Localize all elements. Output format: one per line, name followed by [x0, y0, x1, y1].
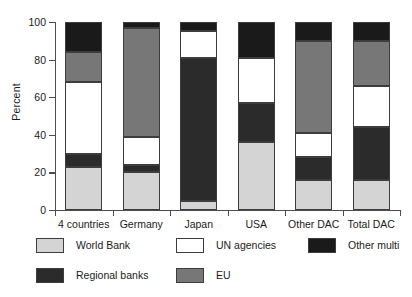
x-axis-tick-label: Total DAC: [348, 219, 395, 230]
bar-segment-regional-banks: [180, 58, 217, 201]
bar-segment-world-bank: [238, 142, 275, 210]
y-axis-tick: [49, 172, 55, 173]
y-axis-tick-label: 80: [34, 54, 46, 65]
x-axis-tick-label: 4 countries: [58, 219, 109, 230]
legend-item-un-agencies: UN agencies: [176, 236, 276, 254]
bar-segment-un-agencies: [123, 137, 160, 165]
bar-segment-regional-banks: [295, 157, 332, 180]
y-axis-tick: [49, 60, 55, 61]
legend-label: EU: [216, 269, 231, 281]
x-axis-tick: [113, 210, 114, 216]
y-axis-tick-label: 60: [34, 92, 46, 103]
bar-segment-other-multi: [180, 22, 217, 31]
bar-segment-other-multi: [353, 22, 390, 41]
legend-item-other-multi: Other multi: [308, 236, 399, 254]
bar-segment-un-agencies: [295, 133, 332, 157]
legend-swatch-icon: [36, 268, 64, 283]
x-axis-tick: [170, 210, 171, 216]
x-axis-tick: [400, 210, 401, 216]
bar-segment-un-agencies: [180, 31, 217, 57]
chart-legend: World BankUN agenciesOther multiRegional…: [36, 236, 406, 294]
legend-item-regional-banks: Regional banks: [36, 266, 148, 284]
y-axis-tick-label: 100: [28, 17, 46, 28]
legend-swatch-icon: [176, 268, 204, 283]
bar-segment-un-agencies: [65, 82, 102, 153]
x-axis-tick: [228, 210, 229, 216]
bar-segment-world-bank: [353, 180, 390, 210]
plot-area: 020406080100 4 countriesGermanyJapanUSAO…: [55, 22, 400, 210]
y-axis-tick-label: 40: [34, 130, 46, 141]
x-axis-tick: [55, 210, 56, 216]
y-axis-tick: [49, 135, 55, 136]
legend-swatch-icon: [308, 238, 336, 253]
y-axis-line: [55, 22, 56, 210]
bar-segment-un-agencies: [353, 86, 390, 127]
legend-label: Other multi: [348, 239, 399, 251]
bar-japan: [180, 22, 217, 210]
bar-segment-world-bank: [65, 167, 102, 210]
bar-segment-other-multi: [123, 22, 160, 28]
stacked-bar-chart: Percent 020406080100 4 countriesGermanyJ…: [0, 0, 412, 297]
bar-segment-eu: [353, 41, 390, 86]
x-axis-tick-label: Other DAC: [288, 219, 339, 230]
y-axis-tick: [49, 97, 55, 98]
bar-segment-other-multi: [295, 22, 332, 41]
bar-usa: [238, 22, 275, 210]
x-axis-tick: [285, 210, 286, 216]
y-axis-tick: [49, 22, 55, 23]
x-axis-tick-label: USA: [245, 219, 267, 230]
x-axis-tick-label: Germany: [120, 219, 163, 230]
bar-segment-regional-banks: [238, 103, 275, 142]
legend-label: UN agencies: [216, 239, 276, 251]
bar-segment-eu: [65, 52, 102, 82]
legend-label: Regional banks: [76, 269, 148, 281]
bar-segment-regional-banks: [353, 127, 390, 180]
bar-total-dac: [353, 22, 390, 210]
bar-segment-un-agencies: [238, 58, 275, 103]
x-axis-tick-label: Japan: [184, 219, 213, 230]
bar-segment-eu: [295, 41, 332, 133]
bar-4-countries: [65, 22, 102, 210]
bar-segment-regional-banks: [65, 154, 102, 167]
bar-segment-regional-banks: [123, 165, 160, 173]
bar-segment-other-multi: [238, 22, 275, 58]
legend-item-world-bank: World Bank: [36, 236, 130, 254]
bar-segment-world-bank: [180, 201, 217, 210]
bar-segment-world-bank: [295, 180, 332, 210]
legend-swatch-icon: [36, 238, 64, 253]
bar-segment-world-bank: [123, 172, 160, 210]
bar-segment-eu: [123, 28, 160, 137]
y-axis-title: Percent: [10, 62, 22, 142]
bar-other-dac: [295, 22, 332, 210]
y-axis-tick-label: 0: [40, 205, 46, 216]
legend-label: World Bank: [76, 239, 130, 251]
legend-item-eu: EU: [176, 266, 231, 284]
bar-segment-other-multi: [65, 22, 102, 52]
x-axis-tick: [343, 210, 344, 216]
bar-germany: [123, 22, 160, 210]
y-axis-tick-label: 20: [34, 167, 46, 178]
legend-swatch-icon: [176, 238, 204, 253]
